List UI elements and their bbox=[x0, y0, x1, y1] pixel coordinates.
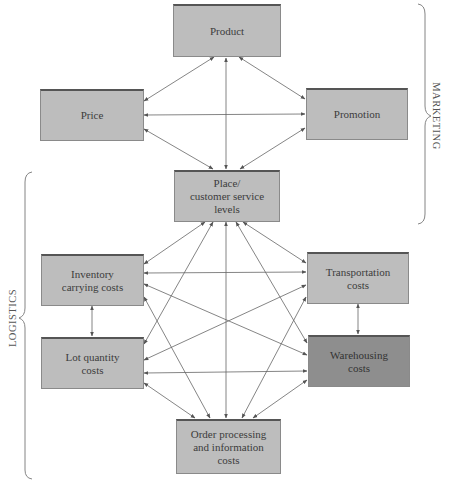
box-product-label: Product bbox=[210, 25, 244, 38]
box-promotion-label: Promotion bbox=[334, 108, 380, 121]
box-product: Product bbox=[173, 4, 281, 57]
box-inventory-label: Inventory carrying costs bbox=[62, 268, 123, 294]
box-transportation-label: Transportation costs bbox=[326, 266, 390, 292]
box-place-customer-service: Place/ customer service levels bbox=[174, 170, 280, 222]
box-price: Price bbox=[40, 89, 144, 141]
box-order-processing-label: Order processing and information costs bbox=[191, 428, 266, 467]
marketing-group-label: MARKETING bbox=[431, 82, 442, 150]
logistics-brace bbox=[19, 172, 32, 479]
box-warehousing-costs: Warehousing costs bbox=[308, 335, 410, 387]
box-promotion: Promotion bbox=[306, 88, 408, 140]
marketing-brace bbox=[418, 4, 431, 224]
box-lot-quantity-label: Lot quantity costs bbox=[65, 351, 119, 377]
box-inventory-carrying-costs: Inventory carrying costs bbox=[41, 254, 144, 306]
box-price-label: Price bbox=[81, 109, 104, 122]
box-transportation-costs: Transportation costs bbox=[307, 252, 409, 304]
relationship-diagram bbox=[0, 0, 459, 482]
logistics-group-label: LOGISTICS bbox=[7, 289, 18, 347]
box-lot-quantity-costs: Lot quantity costs bbox=[41, 337, 144, 389]
box-order-processing-costs: Order processing and information costs bbox=[176, 419, 281, 474]
box-place-label: Place/ customer service levels bbox=[190, 177, 264, 216]
box-warehousing-label: Warehousing costs bbox=[330, 349, 388, 375]
